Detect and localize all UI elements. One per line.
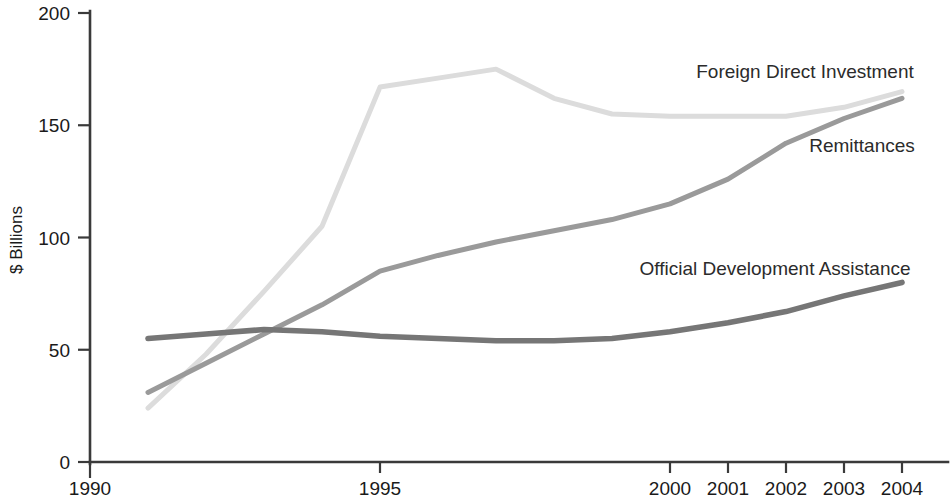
x-tick-label: 2003 (823, 478, 865, 499)
series-lines (148, 69, 902, 408)
x-axis-tick-labels: 1990199520002001200220032004 (69, 478, 924, 499)
y-tick-label: 100 (38, 228, 70, 249)
x-tick-label: 2004 (881, 478, 924, 499)
y-tick-label: 50 (49, 340, 70, 361)
series-line-remittances (148, 98, 902, 392)
y-tick-label: 150 (38, 115, 70, 136)
x-tick-label: 2001 (707, 478, 749, 499)
x-tick-label: 2000 (649, 478, 691, 499)
y-axis-ticks (78, 13, 90, 462)
series-label-official-development-assistance: Official Development Assistance (639, 258, 910, 279)
y-axis-group: 050100150200 (38, 3, 90, 473)
series-labels: Foreign Direct InvestmentRemittancesOffi… (639, 61, 914, 279)
series-label-foreign-direct-investment: Foreign Direct Investment (696, 61, 914, 82)
line-chart: 050100150200 199019952000200120022003200… (0, 0, 950, 503)
x-tick-label: 1990 (69, 478, 111, 499)
series-label-remittances: Remittances (809, 135, 915, 156)
x-tick-label: 2002 (765, 478, 807, 499)
y-axis-tick-labels: 050100150200 (38, 3, 70, 473)
y-tick-label: 0 (59, 452, 70, 473)
x-axis-group: 1990199520002001200220032004 (69, 462, 948, 499)
x-axis-ticks (90, 462, 902, 478)
chart-page: 050100150200 199019952000200120022003200… (0, 0, 950, 503)
y-tick-label: 200 (38, 3, 70, 24)
y-axis-title: $ Billions (7, 206, 26, 274)
x-tick-label: 1995 (359, 478, 401, 499)
